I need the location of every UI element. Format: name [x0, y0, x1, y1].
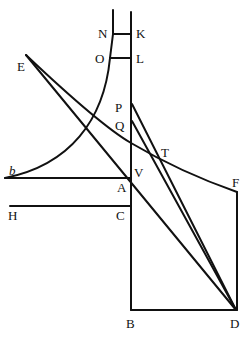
- label-d: D: [230, 316, 239, 331]
- label-b: B: [126, 316, 135, 331]
- label-v: V: [134, 165, 144, 180]
- label-p: P: [115, 100, 122, 115]
- label-q: Q: [115, 118, 125, 133]
- geometry-diagram: N K O L E P Q T b V A F H C B D: [0, 0, 248, 341]
- label-f: F: [232, 175, 239, 190]
- label-n: N: [98, 26, 108, 41]
- label-l: L: [136, 51, 144, 66]
- label-c: C: [116, 208, 125, 223]
- label-o: O: [95, 51, 104, 66]
- label-t: T: [161, 145, 169, 160]
- line-pd: [132, 104, 236, 310]
- label-k: K: [136, 26, 146, 41]
- label-e: E: [17, 59, 25, 74]
- label-b-small: b: [9, 163, 16, 178]
- label-a: A: [117, 180, 127, 195]
- line-qd: [132, 121, 236, 310]
- label-h: H: [8, 208, 17, 223]
